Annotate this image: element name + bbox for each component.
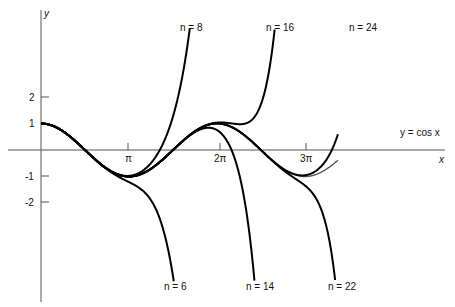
- y-tick-label-minus1: -1: [25, 171, 34, 182]
- label-n6: n = 6: [164, 281, 187, 292]
- y-tick-label-minus2: -2: [25, 197, 34, 208]
- curve-n-14: [41, 124, 254, 281]
- label-n22: n = 22: [328, 281, 357, 292]
- label-cos: y = cos x: [400, 127, 440, 138]
- x-ticks: [128, 143, 306, 150]
- x-tick-label-2pi: 2π: [214, 153, 227, 164]
- y-tick-label-1: 1: [29, 118, 35, 129]
- x-tick-label-3pi: 3π: [300, 153, 313, 164]
- label-n14: n = 14: [246, 281, 275, 292]
- y-axis-label: y: [43, 8, 50, 19]
- taylor-cos-chart: y x 2 1 -1 -2 π 2π 3π n = 8 n = 16 n = 2…: [0, 0, 455, 307]
- curves-group: [41, 29, 338, 281]
- curve-n-6: [41, 124, 174, 282]
- label-n16: n = 16: [266, 22, 295, 33]
- y-tick-label-2: 2: [29, 92, 35, 103]
- x-axis-label: x: [438, 154, 445, 165]
- label-n24: n = 24: [349, 22, 378, 33]
- x-tick-label-pi: π: [125, 153, 132, 164]
- label-n8: n = 8: [180, 22, 203, 33]
- curve-n-22: [41, 124, 335, 281]
